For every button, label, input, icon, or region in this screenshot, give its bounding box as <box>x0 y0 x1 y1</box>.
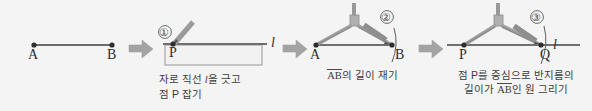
caption-overline-ab: AB <box>327 69 342 82</box>
point-a-label: A <box>28 48 38 62</box>
point-b-label: B <box>395 48 404 62</box>
figure-canvas: A B ① P l 자로 직선 l을 긋고 <box>0 0 592 111</box>
step-number-3: ③ <box>531 11 541 23</box>
point-p-label: P <box>459 48 467 62</box>
caption-post: 인 원 그리기 <box>512 83 568 95</box>
caption-pre: 자로 직선 <box>159 73 205 85</box>
step-number-2: ② <box>381 11 391 23</box>
panel3-caption-line1: AB의 길이 재기 <box>300 68 425 82</box>
panel4-caption-line1: 점 P를 중심으로 반지름의 <box>440 68 592 82</box>
compass-leg-left-edge <box>316 27 351 45</box>
panel2-caption-line1: 자로 직선 l을 긋고 <box>159 72 294 87</box>
caption-pre: 길이가 <box>464 83 497 95</box>
panel-draw-line: ① P l 자로 직선 l을 긋고 점 P 잡기 <box>155 0 290 111</box>
step-number-1: ① <box>159 26 169 38</box>
panel4-caption-line2: 길이가 AB인 원 그리기 <box>440 82 592 96</box>
panel3-caption: AB의 길이 재기 <box>300 68 425 82</box>
pencil-icon <box>172 22 193 46</box>
caption-post: 을 긋고 <box>208 73 241 85</box>
line-l-label: l <box>271 36 275 50</box>
panel-measure-ab: ② A B AB의 길이 재기 <box>300 0 425 111</box>
panel4-caption: 점 P를 중심으로 반지름의 길이가 AB인 원 그리기 <box>440 68 592 96</box>
caption-overline-ab: AB <box>497 83 512 96</box>
panel-draw-circle: ③ P Q l 점 P를 중심으로 반지름의 길이가 AB인 원 그리기 <box>440 0 592 111</box>
caption-rest: 의 길이 재기 <box>342 69 398 81</box>
point-p-label: P <box>169 46 177 60</box>
line-l-label: l <box>553 38 557 52</box>
compass-leg-left-edge <box>464 27 495 45</box>
panel2-caption-line2: 점 P 잡기 <box>159 87 294 101</box>
point-b-dot <box>389 42 394 47</box>
right-arrow-icon-1 <box>128 38 154 60</box>
point-a-label: A <box>310 48 320 62</box>
panel2-caption: 자로 직선 l을 긋고 점 P 잡기 <box>155 72 294 101</box>
ruler-icon <box>165 45 262 65</box>
point-b-label: B <box>107 48 116 62</box>
arrow-shape <box>129 40 153 58</box>
point-q-label: Q <box>540 48 550 62</box>
panel-given-segment: A B <box>0 0 130 111</box>
